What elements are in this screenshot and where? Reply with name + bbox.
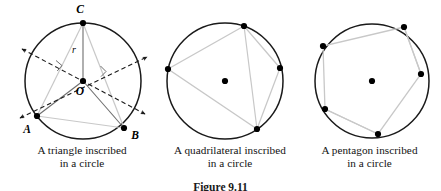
caption-pentagon: A pentagon inscribed in a circle bbox=[292, 144, 441, 169]
label-b: B bbox=[130, 129, 139, 141]
pentagon-chord-1 bbox=[404, 27, 421, 74]
caption-triangle: A triangle inscribed in a circle bbox=[2, 144, 162, 169]
caption-pentagon-line1: A pentagon inscribed bbox=[292, 144, 441, 157]
label-c: C bbox=[76, 3, 84, 15]
vertex-point bbox=[375, 131, 381, 137]
panel-triangle: C A B O r bbox=[20, 3, 147, 141]
label-o: O bbox=[76, 85, 84, 97]
quadrilateral-diagonal bbox=[244, 26, 257, 129]
vertex-point-a bbox=[34, 113, 40, 119]
panel-pentagon bbox=[315, 24, 429, 138]
caption-pentagon-line2: in a circle bbox=[292, 157, 441, 170]
triangle-radii bbox=[37, 23, 124, 128]
caption-quadrilateral-line1: A quadrilateral inscribed bbox=[150, 144, 310, 157]
label-a: A bbox=[22, 123, 31, 135]
caption-quadrilateral: A quadrilateral inscribed in a circle bbox=[150, 144, 310, 169]
vertex-point-b bbox=[121, 125, 127, 131]
caption-triangle-line1: A triangle inscribed bbox=[2, 144, 162, 157]
vertex-point bbox=[418, 71, 424, 77]
center-point-o bbox=[80, 78, 86, 84]
caption-quadrilateral-line2: in a circle bbox=[150, 157, 310, 170]
vertex-point bbox=[277, 65, 283, 71]
vertex-point-c bbox=[80, 20, 86, 26]
figure-container: C A B O r bbox=[0, 0, 441, 191]
center-point bbox=[222, 78, 228, 84]
radius-to-b bbox=[83, 81, 124, 128]
vertex-point bbox=[320, 43, 326, 49]
label-radius-r: r bbox=[72, 44, 76, 55]
vertex-point bbox=[241, 23, 247, 29]
panel-quadrilateral bbox=[165, 23, 283, 139]
right-angle-mark-left bbox=[56, 61, 62, 72]
vertex-point bbox=[165, 66, 171, 72]
center-point bbox=[369, 78, 375, 84]
caption-triangle-line2: in a circle bbox=[2, 157, 162, 170]
vertex-point bbox=[401, 24, 407, 30]
vertex-point bbox=[322, 106, 328, 112]
inscribed-quadrilateral bbox=[168, 26, 280, 129]
vertex-point bbox=[254, 126, 260, 132]
figure-number-label: Figure 9.11 bbox=[0, 181, 441, 191]
